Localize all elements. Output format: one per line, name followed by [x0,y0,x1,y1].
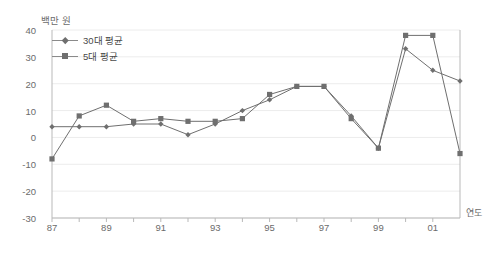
legend-label-series-1: 5대 평균 [83,49,118,63]
data-point-s0-92 [185,132,190,137]
chart-legend: 30대 평균 5대 평균 [52,32,123,64]
data-point-s1-undefined [457,151,462,156]
data-point-s1-93 [213,119,218,124]
data-point-s1-91 [158,116,163,121]
data-point-s1-01 [430,33,435,38]
legend-label-series-0: 30대 평균 [83,33,123,47]
data-point-s1-90 [131,119,136,124]
data-point-s1-98 [349,116,354,121]
data-point-s1-97 [321,84,326,89]
data-point-s1-00 [403,33,408,38]
data-point-s0-undefined [457,78,462,83]
data-point-s1-94 [240,116,245,121]
data-point-s0-95 [267,97,272,102]
data-point-s0-94 [240,108,245,113]
data-point-s0-91 [158,121,163,126]
legend-marker-diamond-icon [52,35,78,45]
data-point-s1-99 [376,146,381,151]
data-point-s1-87 [49,156,54,161]
data-point-s1-89 [104,103,109,108]
legend-item-30dae: 30대 평균 [52,32,123,48]
data-point-s1-96 [294,84,299,89]
data-point-s0-87 [49,124,54,129]
data-point-s1-92 [185,119,190,124]
data-point-s0-89 [104,124,109,129]
chart-container: 백만 원 연도 403020100-10-20-30 8789919395979… [0,0,501,254]
data-point-s0-88 [77,124,82,129]
legend-marker-square-icon [52,51,78,61]
data-point-s1-88 [77,113,82,118]
data-point-s1-95 [267,92,272,97]
legend-item-5dae: 5대 평균 [52,48,123,64]
